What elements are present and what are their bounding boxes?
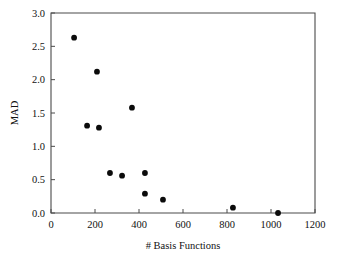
x-tick-label: 200 [87,219,103,230]
x-axis-title: # Basis Functions [146,240,221,251]
y-tick-label: 0.5 [32,174,45,185]
y-tick-label: 3.0 [32,8,45,19]
data-point [160,197,166,203]
y-tick-label: 2.0 [32,74,45,85]
data-point [107,170,113,176]
data-point-series [71,35,281,216]
y-axis-title: MAD [9,100,20,125]
y-tick-label: 1.0 [32,141,45,152]
plot-canvas: 020040060080010001200 0.00.51.01.52.02.5… [0,0,342,262]
data-point [84,123,90,129]
y-axis-tick-labels: 0.00.51.01.52.02.53.0 [32,8,45,219]
x-tick-label: 1000 [261,219,282,230]
y-tick-label: 2.5 [32,41,45,52]
data-point [142,170,148,176]
x-axis-tick-labels: 020040060080010001200 [48,219,325,230]
data-point [119,173,125,179]
x-tick-label: 0 [48,219,53,230]
y-tick-label: 1.5 [32,108,45,119]
data-point [94,69,100,75]
data-point [275,210,281,216]
data-point [71,35,77,41]
x-tick-label: 1200 [305,219,326,230]
scatter-plot-figure: 020040060080010001200 0.00.51.01.52.02.5… [0,0,342,262]
data-point [129,105,135,111]
plot-border [51,13,315,213]
data-point [230,205,236,211]
x-tick-label: 400 [131,219,147,230]
axis-frame [51,13,315,213]
y-axis-ticks [51,13,55,213]
x-tick-label: 600 [175,219,191,230]
x-tick-label: 800 [219,219,235,230]
data-point [142,191,148,197]
data-point [96,125,102,131]
y-tick-label: 0.0 [32,208,45,219]
